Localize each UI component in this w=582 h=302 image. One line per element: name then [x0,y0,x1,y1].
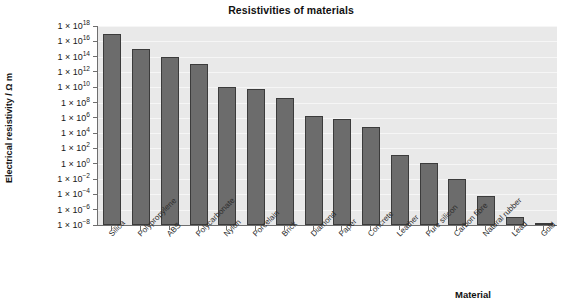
bar [333,119,351,225]
y-tick: 1 × 100 [61,159,97,169]
y-tick-mark [93,148,97,149]
x-tick-mark [255,226,256,230]
x-tick-mark [341,226,342,230]
bar [448,179,466,225]
bar [190,64,208,225]
y-tick: 1 × 10−4 [57,189,97,199]
y-axis-ticks: 1 × 10181 × 10161 × 10141 × 10121 × 1010… [18,26,97,225]
y-tick-label: 1 × 1010 [57,82,93,92]
x-tick-mark [485,226,486,230]
y-tick-label: 1 × 1016 [57,36,93,46]
y-tick: 1 × 10−8 [57,220,97,230]
x-tick-mark [543,226,544,230]
y-tick-label: 1 × 100 [61,159,93,169]
y-tick-mark [93,209,97,210]
x-tick-mark [456,226,457,230]
x-tick-mark [313,226,314,230]
bar [420,163,438,225]
y-tick: 1 × 1016 [57,36,97,46]
x-tick-mark [226,226,227,230]
bar [103,34,121,225]
y-tick-label: 1 × 108 [61,98,93,108]
x-tick-mark [370,226,371,230]
x-tick-mark [514,226,515,230]
gridline [98,26,557,27]
y-tick-mark [93,194,97,195]
y-tick-label: 1 × 1014 [57,52,93,62]
y-tick-mark [93,133,97,134]
x-tick-mark [284,226,285,230]
y-tick-mark [93,71,97,72]
y-tick-label: 1 × 104 [61,128,93,138]
y-tick: 1 × 1018 [57,21,97,31]
y-tick-mark [93,163,97,164]
bar [132,49,150,225]
y-tick-label: 1 × 10−8 [57,220,93,230]
y-tick: 1 × 106 [61,113,97,123]
y-tick: 1 × 102 [61,143,97,153]
y-tick-mark [93,41,97,42]
x-tick-mark [428,226,429,230]
bar [305,116,323,225]
y-tick-mark [93,102,97,103]
gridline [98,41,557,42]
x-axis-title: Material [455,289,491,300]
y-tick-mark [93,179,97,180]
y-tick-mark [93,56,97,57]
x-tick-mark [169,226,170,230]
chart-title: Resistivities of materials [0,4,582,16]
x-tick-mark [111,226,112,230]
x-tick-mark [140,226,141,230]
bar [362,127,380,225]
bar [276,98,294,225]
y-tick: 1 × 1012 [57,67,97,77]
y-tick-label: 1 × 10−2 [57,174,93,184]
y-tick: 1 × 104 [61,128,97,138]
y-tick-label: 1 × 10−4 [57,189,93,199]
y-tick-label: 1 × 102 [61,143,93,153]
y-tick-label: 1 × 106 [61,113,93,123]
y-axis-title-label: Electrical resistivity / Ω m [4,73,14,183]
y-tick-mark [93,26,97,27]
y-tick: 1 × 108 [61,98,97,108]
y-tick: 1 × 1010 [57,82,97,92]
y-tick: 1 × 10−2 [57,174,97,184]
y-tick: 1 × 10−6 [57,205,97,215]
x-tick-mark [399,226,400,230]
y-axis-title: Electrical resistivity / Ω m [2,28,16,228]
y-tick-mark [93,87,97,88]
plot-area [97,26,557,225]
y-tick: 1 × 1014 [57,52,97,62]
y-tick-label: 1 × 10−6 [57,205,93,215]
y-tick-mark [93,117,97,118]
x-tick-mark [198,226,199,230]
bar [247,89,265,225]
y-tick-label: 1 × 1018 [57,21,93,31]
y-tick-label: 1 × 1012 [57,67,93,77]
